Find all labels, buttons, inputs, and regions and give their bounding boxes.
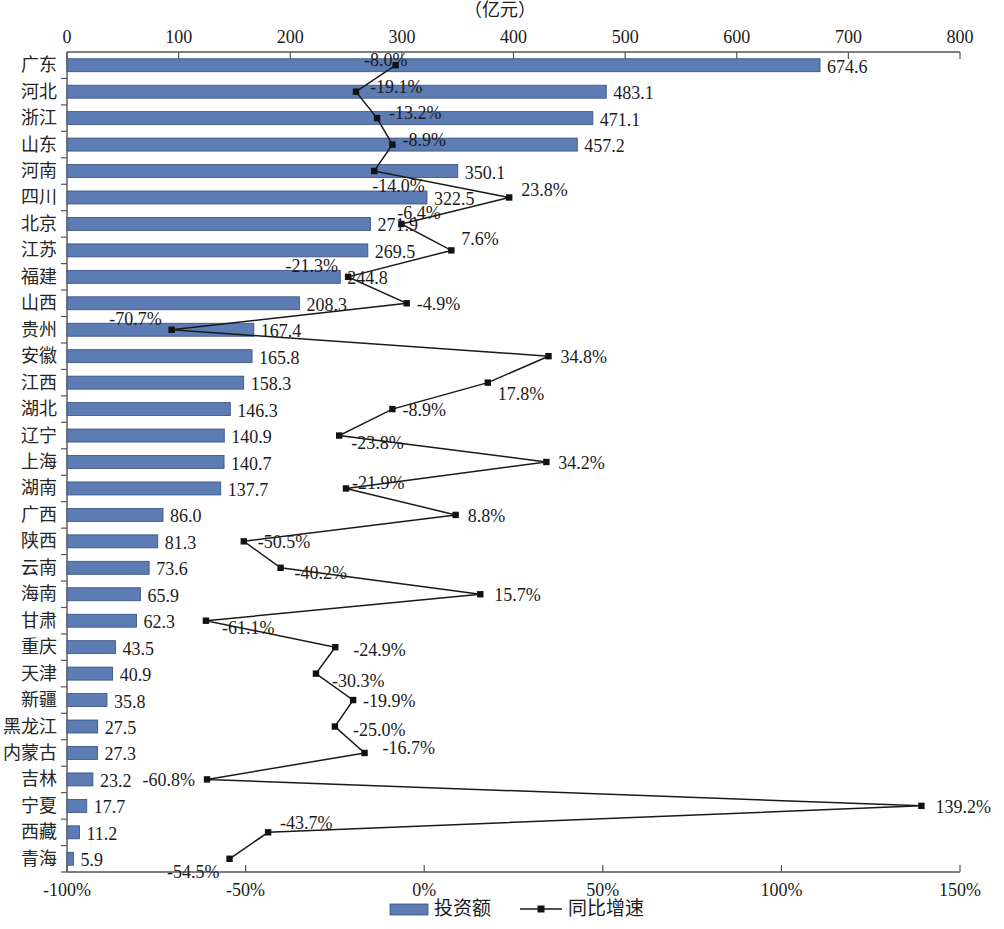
line-marker (332, 644, 338, 650)
line-marker (226, 856, 232, 862)
growth-value-label: -25.0% (353, 720, 406, 740)
growth-value-label: 8.8% (468, 506, 506, 526)
category-label: 湖南 (21, 478, 57, 498)
top-axis-tick-label: 400 (500, 27, 527, 47)
bar-value-label: 73.6 (156, 559, 188, 579)
line-marker (389, 141, 395, 147)
bar-value-label: 62.3 (144, 612, 176, 632)
category-label: 北京 (21, 214, 57, 234)
top-axis-tick-label: 200 (277, 27, 304, 47)
line-marker (241, 538, 247, 544)
category-label: 江苏 (21, 240, 57, 260)
category-label: 陕西 (21, 531, 57, 551)
line-marker (350, 697, 356, 703)
legend-marker-growth (538, 906, 545, 913)
category-label: 江西 (21, 373, 57, 393)
growth-value-label: -8.9% (402, 400, 446, 420)
legend-label-investment: 投资额 (434, 898, 491, 919)
bar-value-label: 674.6 (827, 57, 868, 77)
category-label: 广西 (21, 505, 57, 525)
bar-value-label: 43.5 (123, 639, 155, 659)
bar-value-label: 140.7 (231, 454, 272, 474)
category-label: 宁夏 (21, 796, 57, 816)
growth-value-label: 23.8% (521, 180, 568, 200)
category-label: 浙江 (21, 108, 57, 128)
bar (67, 694, 107, 707)
bar (67, 482, 221, 495)
growth-value-label: -30.3% (332, 671, 385, 691)
top-axis-tick-label: 800 (947, 27, 974, 47)
line-marker (485, 379, 491, 385)
line-marker (277, 565, 283, 571)
category-label: 河南 (21, 161, 57, 181)
bar-value-label: 23.2 (100, 771, 132, 791)
category-label: 广东 (21, 55, 57, 75)
category-label: 甘肃 (21, 611, 57, 631)
growth-value-label: -23.8% (351, 433, 404, 453)
bar-value-label: 140.9 (231, 427, 272, 447)
line-marker (506, 194, 512, 200)
legend-label-growth: 同比增速 (568, 898, 644, 919)
bar-value-label: 165.8 (259, 348, 300, 368)
line-marker (204, 776, 210, 782)
growth-value-label: -6.4% (397, 203, 441, 223)
bottom-axis-tick-label: -100% (43, 880, 91, 900)
bar-value-label: 471.1 (600, 110, 641, 130)
bar-value-label: 40.9 (120, 665, 152, 685)
bar (67, 297, 300, 310)
legend: 投资额同比增速 (390, 898, 644, 919)
growth-value-label: -60.8% (143, 770, 196, 790)
category-label: 新疆 (21, 690, 57, 710)
category-label: 福建 (21, 267, 57, 287)
bar-value-label: 86.0 (170, 506, 202, 526)
growth-value-label: -19.1% (370, 77, 423, 97)
bar (67, 112, 593, 125)
bottom-axis-tick-label: -50% (226, 880, 265, 900)
line-marker (545, 353, 551, 359)
bar (67, 852, 74, 865)
growth-value-label: -61.1% (222, 618, 275, 638)
bar-value-label: 17.7 (94, 797, 126, 817)
bar (67, 350, 252, 363)
bar-value-label: 27.3 (104, 744, 136, 764)
bar (67, 641, 116, 654)
category-label: 西藏 (21, 822, 57, 842)
line-marker (452, 512, 458, 518)
top-axis-tick-label: 100 (165, 27, 192, 47)
bottom-axis-tick-label: 50% (586, 880, 619, 900)
category-label: 贵州 (21, 320, 57, 340)
line-marker (343, 485, 349, 491)
combo-chart: （亿元）0100200300400500600700800广东河北浙江山东河南四… (0, 0, 1004, 929)
growth-value-label: -43.7% (280, 813, 333, 833)
bar-value-label: 81.3 (165, 533, 197, 553)
bar (67, 720, 98, 733)
bar (67, 138, 577, 151)
category-axis: 广东河北浙江山东河南四川北京江苏福建山西贵州安徽江西湖北辽宁上海湖南广西陕西云南… (3, 52, 67, 872)
top-axis-tick-label: 500 (612, 27, 639, 47)
bottom-axis-tick-label: 150% (939, 880, 981, 900)
bar-value-label: 137.7 (228, 480, 269, 500)
bar (67, 403, 230, 416)
top-axis-tick-label: 600 (723, 27, 750, 47)
line-marker (336, 432, 342, 438)
bar (67, 773, 93, 786)
growth-value-label: -24.9% (353, 640, 406, 660)
bottom-axis-tick-label: 0% (412, 880, 436, 900)
bar-series: 674.6483.1471.1457.2350.1322.5271.9269.5… (67, 57, 868, 871)
growth-value-label: -8.0% (364, 50, 408, 70)
category-label: 云南 (21, 558, 57, 578)
growth-value-label: -4.9% (417, 294, 461, 314)
line-marker (332, 723, 338, 729)
bar-value-label: 457.2 (584, 136, 625, 156)
line-marker (203, 618, 209, 624)
bar-value-label: 483.1 (613, 83, 654, 103)
growth-value-label: 139.2% (935, 797, 991, 817)
category-label: 吉林 (21, 769, 57, 789)
growth-value-label: -21.9% (352, 473, 405, 493)
bar (67, 614, 137, 627)
category-label: 海南 (21, 584, 57, 604)
growth-value-label: -8.9% (402, 130, 446, 150)
category-label: 山西 (21, 293, 57, 313)
bar (67, 746, 97, 759)
bar (67, 535, 158, 548)
